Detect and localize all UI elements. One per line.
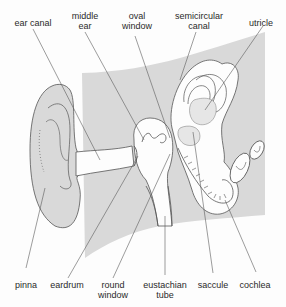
pinna (30, 84, 80, 227)
label-round-window-line1: round (98, 280, 128, 290)
label-middle-ear: middleear (72, 11, 99, 31)
label-ear-canal-text: ear canal (14, 18, 51, 28)
label-ear-canal: ear canal (14, 18, 51, 28)
label-cochlea: cochlea (239, 280, 270, 290)
label-utricle-text: utricle (249, 18, 273, 28)
label-semicircular-canal-line2: canal (175, 21, 223, 31)
label-round-window-line2: window (98, 290, 128, 300)
label-pinna-text: pinna (15, 280, 37, 290)
label-eustachian-tube-line1: eustachian (143, 280, 187, 290)
label-oval-window: ovalwindow (122, 11, 152, 31)
leader-pinna (26, 188, 45, 268)
label-round-window: roundwindow (98, 280, 128, 300)
label-semicircular-canal: semicircularcanal (175, 11, 223, 31)
label-oval-window-line2: window (122, 21, 152, 31)
label-semicircular-canal-line1: semicircular (175, 11, 223, 21)
ear-anatomy-diagram: ear canal middleear ovalwindow semicircu… (0, 0, 286, 307)
label-oval-window-line1: oval (122, 11, 152, 21)
label-saccule-text: saccule (198, 280, 229, 290)
label-middle-ear-line1: middle (72, 11, 99, 21)
label-middle-ear-line2: ear (72, 21, 99, 31)
label-eardrum: eardrum (50, 280, 84, 290)
label-eustachian-tube: eustachiantube (143, 280, 187, 300)
label-eustachian-tube-line2: tube (143, 290, 187, 300)
label-utricle: utricle (249, 18, 273, 28)
label-pinna: pinna (15, 280, 37, 290)
label-eardrum-text: eardrum (50, 280, 84, 290)
head-tissue (82, 32, 265, 258)
diagram-canvas (0, 0, 286, 307)
label-saccule: saccule (198, 280, 229, 290)
label-cochlea-text: cochlea (239, 280, 270, 290)
